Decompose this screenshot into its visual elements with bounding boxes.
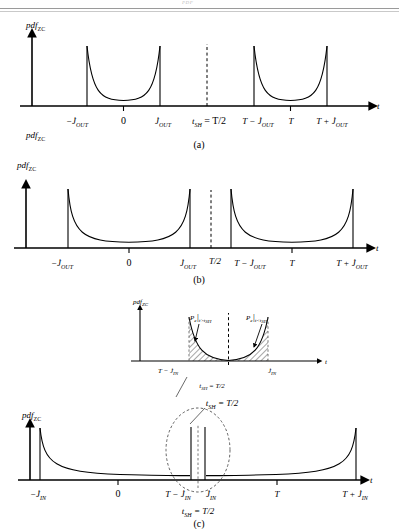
- panel-b-basin-2: [231, 189, 353, 242]
- panel-a-ticklabel-T-plus-jout: T + J̇OUT: [316, 116, 348, 128]
- panel-a-ticklabel-zero: 0: [121, 115, 126, 126]
- inset-ticklabel-left: T − J̇IN: [158, 367, 179, 376]
- figure-root: PDF pdfZC t: [0, 0, 399, 529]
- panel-b-basin-1: [68, 189, 190, 242]
- panel-a-basin-1: [87, 46, 160, 101]
- inset-ticklabel-right: J̇IN: [268, 367, 277, 376]
- inset-leader-line: [176, 377, 187, 397]
- panel-c-callout-label: tSH = T/2: [206, 398, 239, 410]
- panel-b-ticklabel-T: T: [289, 258, 295, 268]
- panel-a-basin-2: [254, 46, 327, 101]
- panel-b-ticklabel-T-plus-jout: T + J̇OUT: [336, 258, 368, 270]
- panel-c-ticklabel-neg-jin: −J̇IN: [30, 489, 47, 501]
- panel-c-below-label: tSH = T/2: [182, 506, 215, 518]
- panel-b-caption: (b): [193, 274, 205, 286]
- panel-c-basin-1: [40, 428, 190, 476]
- inset-annotation-right: Pe|t<tSH: [245, 312, 268, 324]
- panel-b-ticklabel-half-T: T/2: [209, 256, 222, 266]
- panel-b-ticklabel-jout: J̇OUT: [180, 258, 197, 270]
- panel-c-yaxis-label: pdfZC: [21, 410, 41, 422]
- panel-b-xaxis-label: t: [376, 243, 379, 253]
- inset-svg: pdfZC t Pe|t>tSH Pe|t<tSH: [0, 293, 399, 393]
- panel-b: pdfZC t −J̇OUT 0 J̇OUT T/2: [0, 150, 399, 290]
- panel-a-ticklabel-T: T: [288, 116, 294, 126]
- panel-a-ticklabel-T-minus-jout: T − J̇OUT: [242, 116, 274, 128]
- panel-c-callout-leader: [190, 408, 205, 424]
- panel-c-ticklabel-T-minus-jin: T − J̇IN: [165, 489, 191, 501]
- panel-a-svg: pdfZC t −J̇OUT 0: [0, 14, 399, 150]
- panel-a: pdfZC t −J̇OUT 0: [0, 14, 399, 150]
- inset-xaxis-label: t: [325, 358, 328, 366]
- panel-c-ticklabel-jin: J̇IN: [206, 489, 217, 501]
- panel-c-ticklabel-T-plus-jin: T + J̇IN: [342, 489, 368, 501]
- page-header-ghost-text: PDF: [182, 0, 193, 5]
- panel-b-svg: pdfZC t −J̇OUT 0 J̇OUT T/2: [0, 150, 399, 290]
- panel-a-ticklabel-tsh: tSH = T/2: [192, 115, 226, 128]
- panel-c-basin-2: [206, 428, 356, 476]
- panel-a-lower-pdf-label: pdfZC: [25, 130, 45, 142]
- panel-a-ticklabel-neg-jout: −J̇OUT: [66, 116, 89, 128]
- panel-c-svg: tSH = T/2 pdfZC t: [0, 396, 399, 529]
- panel-c-caption: (c): [193, 518, 204, 529]
- inset-yaxis-label: pdfZC: [132, 298, 149, 307]
- panel-b-ticklabel-zero: 0: [127, 257, 132, 268]
- panel-a-yaxis-label: pdfZC: [25, 20, 45, 32]
- panel-c: tSH = T/2 pdfZC t: [0, 396, 399, 529]
- panel-b-ticklabel-T-minus-jout: T − J̇OUT: [234, 258, 266, 270]
- panel-c-ticklabel-zero: 0: [116, 488, 121, 499]
- page-rule-top-secondary: [0, 11, 399, 12]
- panel-c-ticklabel-T: T: [274, 489, 280, 499]
- panel-b-yaxis-label: pdfZC: [16, 160, 36, 172]
- panel-a-ticklabel-jout: J̇OUT: [155, 116, 172, 128]
- panel-a-xaxis-label: t: [377, 101, 380, 111]
- panel-b-ticklabel-neg-jout: −J̇OUT: [51, 258, 74, 270]
- inset-ticklabel-center: tSH = T/2: [199, 382, 225, 391]
- panel-c-xaxis-label: t: [370, 475, 373, 485]
- inset-annotation-left: Pe|t>tSH: [189, 312, 212, 324]
- page-rule-top: [0, 8, 399, 9]
- inset-arrow-left: [195, 324, 199, 341]
- inset-magnifier: pdfZC t Pe|t>tSH Pe|t<tSH: [0, 293, 399, 393]
